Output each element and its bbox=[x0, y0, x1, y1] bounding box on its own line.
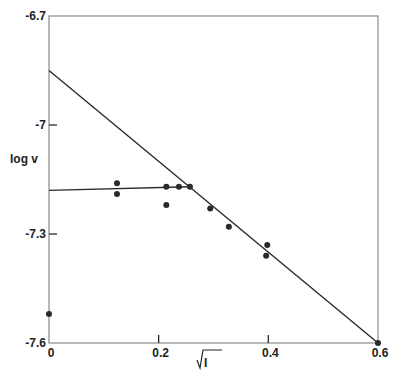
x-axis-ticks: 00.20.40.6 bbox=[48, 335, 389, 360]
x-tick-label: 0.4 bbox=[262, 346, 279, 360]
data-point bbox=[46, 311, 52, 317]
data-point bbox=[176, 184, 182, 190]
data-points bbox=[46, 180, 381, 346]
x-axis-title-argument: I bbox=[204, 356, 207, 370]
fit-line bbox=[49, 71, 378, 344]
data-point bbox=[375, 340, 381, 346]
y-tick-label: -7.6 bbox=[25, 336, 46, 350]
fit-lines bbox=[49, 71, 378, 344]
data-point bbox=[226, 224, 232, 230]
chart: -6.7-7-7.3-7.6 00.20.40.6 log v I bbox=[0, 0, 401, 382]
plot-frame bbox=[49, 16, 378, 343]
y-tick-label: -7 bbox=[35, 118, 46, 132]
x-tick-label: 0.6 bbox=[372, 346, 389, 360]
data-point bbox=[163, 202, 169, 208]
data-point bbox=[264, 242, 270, 248]
sqrt-radical-icon bbox=[197, 350, 222, 368]
data-point bbox=[207, 206, 213, 212]
x-tick-label: 0.2 bbox=[152, 346, 169, 360]
x-axis-title: I bbox=[197, 350, 222, 370]
data-point bbox=[114, 180, 120, 186]
y-axis-title: log v bbox=[10, 152, 38, 166]
data-point bbox=[187, 184, 193, 190]
data-point bbox=[114, 191, 120, 197]
x-tick-label: 0 bbox=[48, 346, 55, 360]
y-tick-label: -6.7 bbox=[25, 9, 46, 23]
data-point bbox=[263, 253, 269, 259]
y-axis-ticks: -6.7-7-7.3-7.6 bbox=[25, 9, 57, 350]
y-tick-label: -7.3 bbox=[25, 227, 46, 241]
data-point bbox=[163, 184, 169, 190]
